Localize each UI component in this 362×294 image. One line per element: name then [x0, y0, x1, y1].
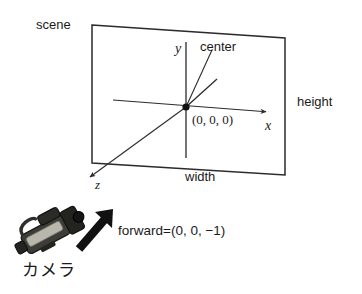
forward-vector-label: forward=(0, 0, −1) — [118, 224, 225, 238]
origin-dot — [182, 103, 189, 110]
scene-plane-outline — [92, 25, 285, 175]
diagram-canvas: scene center height width forward=(0, 0,… — [0, 0, 362, 294]
width-label: width — [185, 170, 215, 183]
origin-coordinate-label: (0, 0, 0) — [192, 113, 233, 126]
y-axis-label: y — [175, 42, 181, 56]
x-axis-label: x — [265, 119, 271, 133]
z-axis-label: z — [95, 178, 100, 191]
scene-label: scene — [36, 18, 71, 31]
center-label: center — [200, 40, 236, 53]
height-label: height — [297, 95, 332, 108]
camera-caption-label: カメラ — [22, 262, 76, 279]
camera-icon — [7, 196, 90, 262]
